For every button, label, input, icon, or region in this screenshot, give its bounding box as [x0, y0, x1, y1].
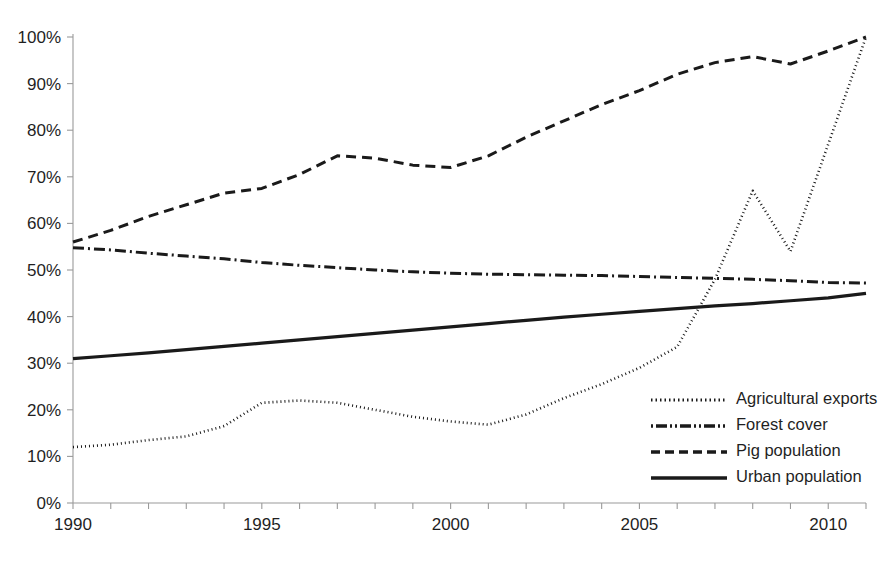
- legend-label-2: Pig population: [736, 441, 841, 459]
- y-tick-label: 0%: [36, 494, 61, 513]
- series-line-0: [73, 37, 866, 447]
- y-axis: 0%10%20%30%40%50%60%70%80%90%100%: [18, 28, 73, 513]
- y-tick-label: 80%: [27, 121, 61, 140]
- x-tick-label: 2000: [432, 515, 470, 534]
- series-line-1: [73, 248, 866, 283]
- y-tick-label: 70%: [27, 168, 61, 187]
- x-tick-label: 2005: [621, 515, 659, 534]
- legend-label-0: Agricultural exports: [736, 389, 877, 407]
- chart-legend: Agricultural exportsForest coverPig popu…: [651, 389, 877, 485]
- y-tick-label: 10%: [27, 447, 61, 466]
- y-tick-label: 90%: [27, 75, 61, 94]
- series-line-2: [73, 37, 866, 242]
- y-tick-label: 100%: [18, 28, 61, 47]
- x-tick-label: 1995: [243, 515, 281, 534]
- legend-label-3: Urban population: [736, 467, 862, 485]
- y-tick-label: 50%: [27, 261, 61, 280]
- y-tick-label: 60%: [27, 214, 61, 233]
- line-chart: 0%10%20%30%40%50%60%70%80%90%100% 199019…: [0, 0, 896, 561]
- legend-label-1: Forest cover: [736, 415, 828, 433]
- x-tick-label: 2010: [809, 515, 847, 534]
- y-tick-label: 30%: [27, 354, 61, 373]
- y-tick-label: 40%: [27, 308, 61, 327]
- chart-canvas: 0%10%20%30%40%50%60%70%80%90%100% 199019…: [0, 0, 896, 561]
- series-line-3: [73, 293, 866, 358]
- y-tick-label: 20%: [27, 401, 61, 420]
- x-axis: 19901995200020052010: [54, 503, 866, 534]
- x-tick-label: 1990: [54, 515, 92, 534]
- series-layer: [73, 37, 866, 447]
